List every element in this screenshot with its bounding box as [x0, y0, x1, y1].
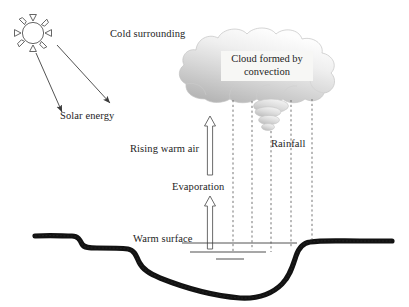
label-rainfall: Rainfall [271, 138, 306, 150]
evaporation-arrow [205, 196, 216, 249]
label-cloud-formed-by-convection: Cloud formed by convection [221, 51, 313, 81]
solar-energy-arrows [36, 45, 110, 112]
cloud-puffs [254, 99, 289, 130]
label-cold-surrounding: Cold surrounding [110, 28, 185, 40]
label-warm-surface: Warm surface [133, 233, 193, 245]
rising-warm-air-arrow [205, 116, 216, 175]
label-evaporation: Evaporation [172, 181, 224, 193]
terrain-profile [35, 236, 392, 299]
cloud-label-line-2: convection [221, 66, 313, 79]
diagram-canvas: Cold surrounding Cloud formed by convect… [0, 0, 409, 307]
label-solar-energy: Solar energy [60, 110, 114, 122]
diagram-vector-layer [0, 0, 409, 307]
water-level-marks [190, 252, 266, 259]
sun-icon [15, 15, 52, 52]
cloud-label-line-1: Cloud formed by [221, 53, 313, 66]
label-rising-warm-air: Rising warm air [130, 143, 199, 155]
